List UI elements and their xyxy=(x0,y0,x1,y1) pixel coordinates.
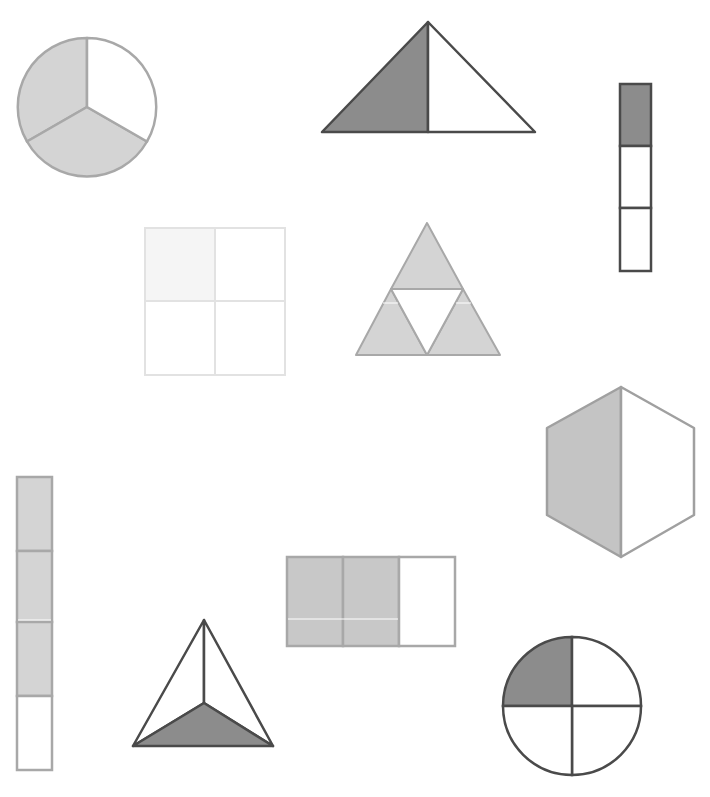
triforce-quarters-shape xyxy=(356,223,500,355)
fraction-shapes-canvas xyxy=(0,0,710,797)
square-quarters-shape xyxy=(145,228,285,375)
vertical-strip-quarters-shape xyxy=(17,477,52,770)
triangle-halves-shape xyxy=(322,22,535,132)
circle-thirds-shape xyxy=(18,38,156,176)
circle-quarters-shape xyxy=(503,637,641,775)
vertical-strip-thirds-shape xyxy=(620,84,651,271)
rectangle-thirds-shape xyxy=(287,557,455,646)
triangle-thirds-shape xyxy=(133,620,273,746)
hexagon-halves-shape xyxy=(547,387,694,557)
